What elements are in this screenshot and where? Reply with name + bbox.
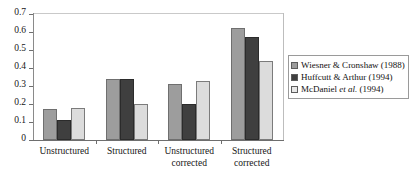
y-axis-tick-label: 0.7 [14,7,26,18]
legend-item[interactable]: McDaniel et al. (1994) [291,83,405,95]
plot-area [33,14,283,140]
y-axis-tick-label: 0 [21,133,26,144]
y-axis-tick-label: 0.3 [14,79,26,90]
bar [182,104,196,140]
legend-swatch-icon [291,86,298,93]
legend-item[interactable]: Huffcutt & Arthur (1994) [291,71,405,83]
plot-frame-right [283,13,284,141]
legend-swatch-icon [291,62,298,69]
legend-item-label: Huffcutt & Arthur (1994) [301,72,393,82]
x-axis-category-label: Unstructured [33,146,96,158]
bar [71,108,85,140]
x-axis-category-label: Unstructured corrected [158,146,221,169]
bar [57,120,71,140]
x-axis-tick-mark [221,140,222,144]
bar [196,81,210,140]
y-axis-tick-label: 0.1 [14,115,26,126]
bar [134,104,148,140]
legend-item-label: Wiesner & Cronshaw (1988) [301,60,405,70]
y-axis-tick-label: 0.6 [14,25,26,36]
bar [168,84,182,140]
legend-swatch-icon [291,74,298,81]
x-axis-tick-mark [158,140,159,144]
x-axis-tick-mark [96,140,97,144]
x-axis-category-label: Structured [96,146,159,158]
x-axis-category-label: Structured corrected [221,146,284,169]
bar [259,61,273,140]
chart-legend: Wiesner & Cronshaw (1988)Huffcutt & Arth… [288,55,409,99]
y-axis-tick-label: 0.4 [14,61,26,72]
legend-item-label: McDaniel et al. (1994) [301,84,384,94]
y-axis-tick-mark [29,140,33,141]
bar [231,28,245,140]
bar [245,37,259,140]
y-axis-tick-label: 0.5 [14,43,26,54]
bar [43,109,57,140]
bar [106,79,120,140]
legend-item[interactable]: Wiesner & Cronshaw (1988) [291,59,405,71]
bar [120,79,134,140]
y-axis-tick-label: 0.2 [14,97,26,108]
